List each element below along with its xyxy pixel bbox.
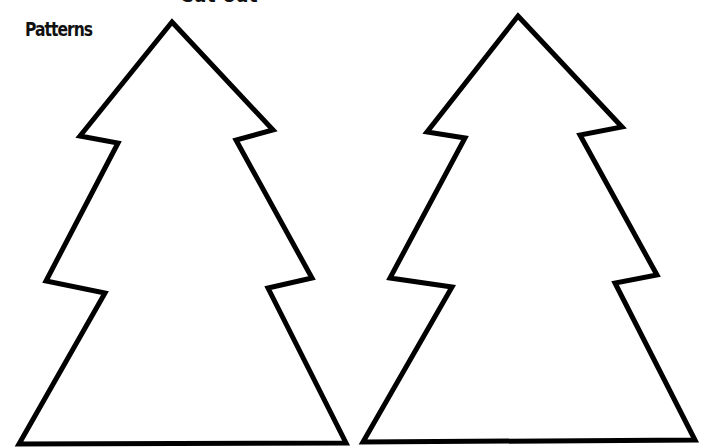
pattern-canvas: [0, 0, 703, 447]
tree-pattern-left: [19, 22, 346, 444]
tree-pattern-right: [363, 16, 695, 442]
